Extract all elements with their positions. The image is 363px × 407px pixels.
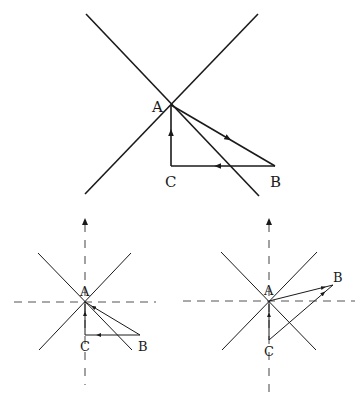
point-label-c: C xyxy=(264,344,274,359)
point-label-a: A xyxy=(79,284,90,299)
point-label-a: A xyxy=(151,98,163,116)
point-label-c: C xyxy=(165,173,176,191)
bottom-right-diagram: ABC xyxy=(183,218,355,398)
point-label-b: B xyxy=(333,270,343,285)
bottom-left-diagram: ABC xyxy=(14,218,156,385)
axis-up-arrow-icon xyxy=(82,218,88,225)
point-label-b: B xyxy=(138,339,148,354)
diagram-canvas: ABC ABC ABC xyxy=(0,0,363,407)
axis-up-arrow-icon xyxy=(266,218,272,225)
top-diagram: ABC xyxy=(85,14,281,196)
point-label-a: A xyxy=(263,283,274,298)
vector-AB xyxy=(171,105,275,166)
point-label-c: C xyxy=(80,339,90,354)
point-label-b: B xyxy=(270,173,281,191)
